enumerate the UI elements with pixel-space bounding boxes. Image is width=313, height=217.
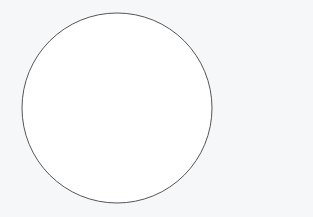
- drawing-canvas: [0, 0, 313, 217]
- circle-shape: [22, 13, 212, 203]
- circle-diagram: [0, 0, 313, 217]
